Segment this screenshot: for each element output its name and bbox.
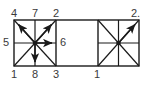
arrow-up-right — [35, 25, 52, 44]
left-cell-center-node — [33, 41, 38, 46]
arrow-up-right — [119, 25, 136, 44]
label-top-2: 7 — [32, 8, 38, 19]
arrow-up-left — [19, 25, 36, 44]
figure-canvas: 4 7 2 2. 5 6 1 8 3 1 — [0, 0, 154, 85]
label-top-1: 4 — [11, 8, 17, 19]
label-bottom-1: 1 — [11, 69, 17, 80]
label-bottom-4: 1 — [94, 69, 100, 80]
label-inner-1: 6 — [60, 37, 66, 48]
label-left-1: 5 — [3, 37, 9, 48]
right-cell-center-node — [116, 41, 121, 46]
right-cell-arrows — [119, 25, 136, 44]
label-top-3: 2 — [53, 8, 59, 19]
label-bottom-3: 3 — [53, 69, 59, 80]
label-bottom-2: 8 — [32, 69, 38, 80]
label-top-4: 2. — [131, 8, 140, 19]
